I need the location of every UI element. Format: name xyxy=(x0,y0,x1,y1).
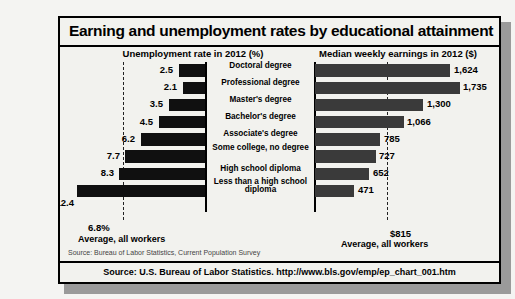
chart-row: 2.1 Professional degree 1,735 xyxy=(60,79,499,96)
category-label: Some college, no degree xyxy=(208,144,313,153)
earnings-bar-track: 652 xyxy=(315,165,499,182)
chart-row: 3.5 Master's degree 1,300 xyxy=(60,96,499,113)
category-label: Professional degree xyxy=(208,79,313,88)
earnings-bar-track: 727 xyxy=(315,148,499,165)
earnings-bar xyxy=(315,150,376,162)
unemployment-bar-track: 3.5 xyxy=(60,96,205,113)
category-label: Master's degree xyxy=(208,96,313,105)
category-label: Doctoral degree xyxy=(208,62,313,71)
earnings-bar xyxy=(315,82,460,94)
unemployment-bar xyxy=(169,99,205,111)
earnings-value-label: 652 xyxy=(373,167,389,178)
category-label: Less than a high school diploma xyxy=(208,178,313,195)
earnings-bar xyxy=(315,99,423,111)
column-heading-earnings: Median weekly earnings in 2012 ($) xyxy=(300,48,496,59)
unemployment-bar-track: 8.3 xyxy=(60,165,205,182)
category-label: High school diploma xyxy=(208,165,313,174)
unemployment-value-label: 4.5 xyxy=(140,116,153,127)
chart-plot-area: 2.5 Doctoral degree 1,624 2.1 Profession… xyxy=(60,62,499,232)
earnings-value-label: 727 xyxy=(379,150,395,161)
earnings-bar-track: 1,735 xyxy=(315,79,499,96)
earnings-bar-track: 1,624 xyxy=(315,62,499,79)
unemployment-bar xyxy=(141,133,205,145)
earnings-value-label: 1,624 xyxy=(454,64,478,75)
footer-divider-bottom xyxy=(60,282,499,284)
earnings-bar-track: 785 xyxy=(315,131,499,148)
average-value-earnings: $815 xyxy=(390,228,411,239)
earnings-bar xyxy=(315,185,354,197)
average-caption-earnings: Average, all workers xyxy=(341,239,428,249)
chart-row: 4.5 Bachelor's degree 1,066 xyxy=(60,114,499,131)
chart-card: Earning and unemployment rates by educat… xyxy=(58,16,501,284)
unemployment-bar xyxy=(159,116,206,128)
earnings-value-label: 1,066 xyxy=(407,116,431,127)
unemployment-bar-track: 2.1 xyxy=(60,79,205,96)
unemployment-bar-track: 12.4 xyxy=(60,182,205,199)
unemployment-value-label: 12.4 xyxy=(58,197,74,208)
earnings-value-label: 1,300 xyxy=(427,98,451,109)
footer-source-text: Source: U.S. Bureau of Labor Statistics.… xyxy=(60,267,499,277)
page-title: Earning and unemployment rates by educat… xyxy=(69,22,493,40)
average-caption-unemployment: Average, all workers xyxy=(78,234,165,244)
unemployment-value-label: 8.3 xyxy=(101,167,114,178)
average-value-unemployment: 6.8% xyxy=(88,222,110,233)
unemployment-bar-track: 2.5 xyxy=(60,62,205,79)
earnings-bar xyxy=(315,64,450,76)
unemployment-bar xyxy=(183,82,205,94)
unemployment-value-label: 2.1 xyxy=(164,81,177,92)
unemployment-bar xyxy=(77,185,205,197)
unemployment-value-label: 7.7 xyxy=(107,150,120,161)
chart-row: 7.7 Some college, no degree 727 xyxy=(60,148,499,165)
unemployment-value-label: 2.5 xyxy=(160,64,173,75)
earnings-bar xyxy=(315,133,380,145)
earnings-bar-track: 1,300 xyxy=(315,96,499,113)
title-divider xyxy=(60,45,499,47)
unemployment-value-label: 6.2 xyxy=(122,133,135,144)
earnings-bar-track: 471 xyxy=(315,182,499,199)
unemployment-bar-track: 7.7 xyxy=(60,148,205,165)
earnings-bar xyxy=(315,116,404,128)
chart-row: 2.5 Doctoral degree 1,624 xyxy=(60,62,499,79)
earnings-value-label: 471 xyxy=(358,184,374,195)
earnings-value-label: 785 xyxy=(384,133,400,144)
column-heading-unemployment: Unemployment rate in 2012 (%) xyxy=(93,48,293,59)
footer-band: Source: U.S. Bureau of Labor Statistics.… xyxy=(60,263,499,284)
category-label: Bachelor's degree xyxy=(208,113,313,122)
earnings-value-label: 1,735 xyxy=(463,81,487,92)
unemployment-bar xyxy=(125,150,205,162)
unemployment-bar xyxy=(119,168,205,180)
unemployment-value-label: 3.5 xyxy=(150,98,163,109)
category-label: Associate's degree xyxy=(208,130,313,139)
earnings-bar xyxy=(315,168,369,180)
chart-row: 12.4 Less than a high school diploma 471 xyxy=(60,182,499,199)
page-background: Earning and unemployment rates by educat… xyxy=(0,0,515,299)
earnings-bar-track: 1,066 xyxy=(315,114,499,131)
unemployment-bar-track: 6.2 xyxy=(60,131,205,148)
unemployment-bar-track: 4.5 xyxy=(60,114,205,131)
source-note: Source: Bureau of Labor Statistics, Curr… xyxy=(68,249,260,256)
unemployment-bar xyxy=(179,64,205,76)
